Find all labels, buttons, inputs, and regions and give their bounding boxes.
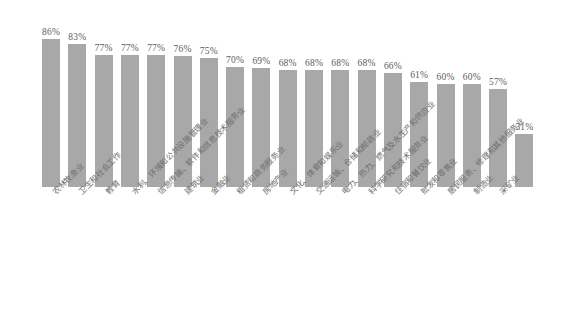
- bar-group: 83%: [64, 0, 90, 190]
- bar-group: 68%: [275, 0, 301, 190]
- bar: [121, 55, 139, 187]
- bar-group: 86%: [38, 0, 64, 190]
- bar-group: 77%: [117, 0, 143, 190]
- x-axis-label-group: 农林牧渔业卫生和社会工作教育水利、环境和公共设施管理业信息传输、软件和信息技术服…: [0, 190, 571, 333]
- bar: [42, 39, 60, 187]
- bar-group: 57%: [485, 0, 511, 190]
- bar-group: 31%: [511, 0, 537, 190]
- bar-group: 75%: [196, 0, 222, 190]
- bar-chart: 86%83%77%77%77%76%75%70%69%68%68%68%68%6…: [0, 0, 571, 333]
- bar-group: 70%: [222, 0, 248, 190]
